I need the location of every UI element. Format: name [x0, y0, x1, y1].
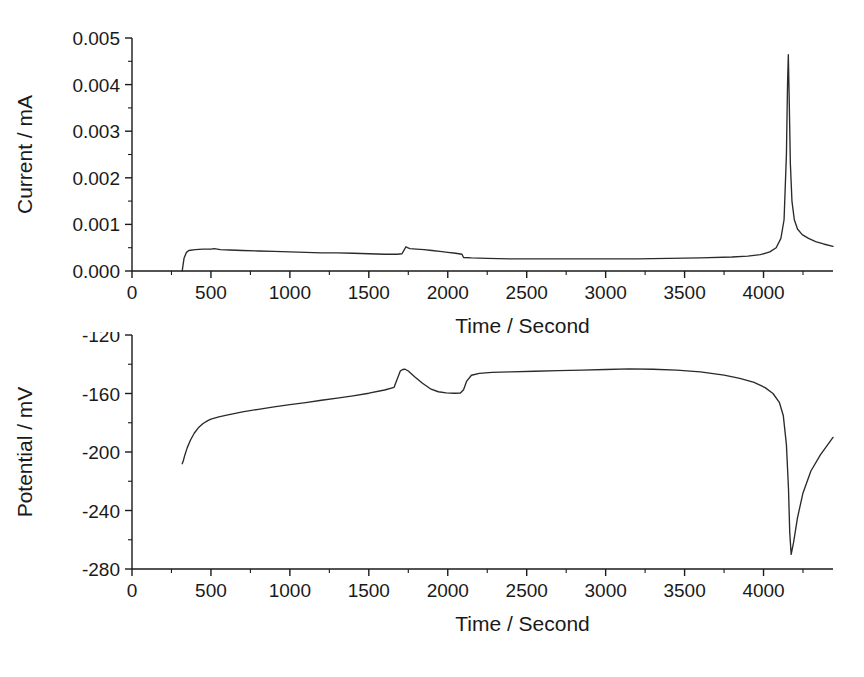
- figure-container: 0.0000.0010.0020.0030.0040.0050500100015…: [0, 0, 864, 677]
- x-tick-label: 1000: [269, 580, 311, 601]
- x-tick-label: 500: [195, 282, 227, 303]
- y-tick-label: 0.001: [72, 214, 120, 235]
- y-tick-label: 0.004: [72, 75, 120, 96]
- potential-vs-time-chart: -280-240-200-160-12005001000150020002500…: [0, 332, 864, 677]
- x-tick-label: 2000: [427, 282, 469, 303]
- x-tick-label: 2500: [506, 282, 548, 303]
- x-tick-label: 1500: [348, 580, 390, 601]
- y-tick-label: -120: [82, 332, 120, 346]
- y-axis-title: Current / mA: [13, 95, 36, 214]
- x-tick-label: 4000: [742, 580, 784, 601]
- x-tick-label: 500: [195, 580, 227, 601]
- x-tick-label: 3000: [585, 282, 627, 303]
- x-tick-label: 0: [127, 282, 138, 303]
- x-tick-label: 3500: [663, 282, 705, 303]
- x-tick-label: 3500: [663, 580, 705, 601]
- data-curve-current: [182, 55, 833, 271]
- y-tick-label: -240: [82, 501, 120, 522]
- x-tick-label: 3000: [585, 580, 627, 601]
- x-axis-title: Time / Second: [455, 612, 590, 635]
- data-curve-potential: [182, 369, 833, 554]
- x-tick-label: 2500: [506, 580, 548, 601]
- x-tick-label: 4000: [742, 282, 784, 303]
- x-tick-label: 0: [127, 580, 138, 601]
- y-tick-label: 0.000: [72, 261, 120, 282]
- y-tick-label: 0.005: [72, 28, 120, 49]
- x-tick-label: 1500: [348, 282, 390, 303]
- x-tick-label: 2000: [427, 580, 469, 601]
- y-tick-label: -160: [82, 384, 120, 405]
- y-axis-title: Potential / mV: [13, 387, 36, 518]
- y-tick-label: 0.003: [72, 121, 120, 142]
- y-tick-label: -280: [82, 559, 120, 580]
- y-tick-label: 0.002: [72, 168, 120, 189]
- current-vs-time-chart: 0.0000.0010.0020.0030.0040.0050500100015…: [0, 0, 864, 345]
- x-tick-label: 1000: [269, 282, 311, 303]
- y-tick-label: -200: [82, 442, 120, 463]
